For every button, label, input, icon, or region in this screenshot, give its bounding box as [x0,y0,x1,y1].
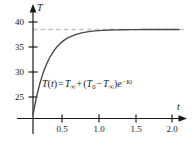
x-tick-label-2-0: 2.0 [160,125,184,134]
x-axis-label: t [177,102,180,112]
y-tick-label-40: 40 [4,18,24,27]
x-tick-label-1-5: 1.5 [124,125,148,134]
x-tick-label-1-0: 1.0 [87,125,111,134]
equation-exponent: −Kt [122,78,133,85]
y-tick-label-30: 30 [4,68,24,77]
equation-exp-variable: t [130,78,132,85]
equation-annotation: T(t)=T∞+(T0−T∞)e−Kt [42,79,132,91]
x-tick-label-0-5: 0.5 [50,125,74,134]
equation-equals: = [57,78,65,89]
exponential-curve [33,30,179,115]
y-axis-label: T [37,3,43,13]
x-axis-arrowhead [179,115,188,121]
equation-subscript-infinity: ∞ [70,82,75,91]
plot-canvas [0,0,192,144]
temperature-curve-figure: T t 40 35 30 25 0.5 1.0 1.5 2.0 T(t)=T∞+… [0,0,192,144]
equation-minus: − [95,78,103,89]
y-tick-label-25: 25 [4,93,24,102]
y-tick-label-35: 35 [4,43,24,52]
y-axis-arrowhead [30,4,37,13]
